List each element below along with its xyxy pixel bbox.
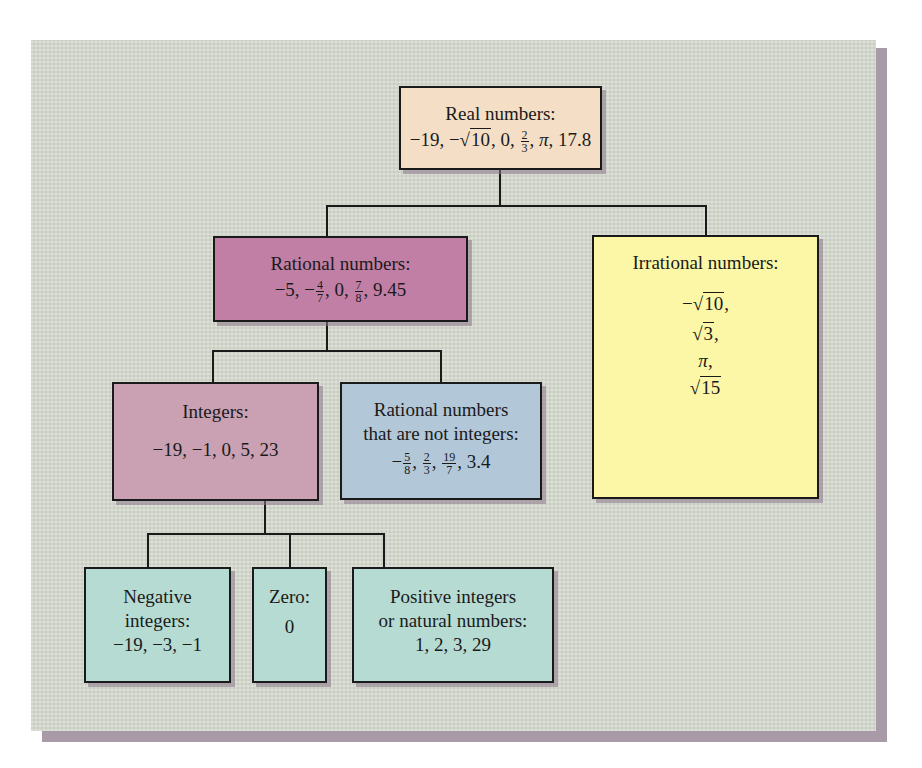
integers-label: Integers: xyxy=(114,400,317,424)
irrational-numbers-box: Irrational numbers: −√10, √3, π, √15 xyxy=(592,235,819,499)
connector-to-positive xyxy=(383,533,385,567)
irrational-example-2: √3, xyxy=(594,319,817,349)
real-numbers-box: Real numbers: −19, −√10, 0, 23, π, 17.8 xyxy=(399,86,602,170)
real-numbers-examples: −19, −√10, 0, 23, π, 17.8 xyxy=(401,128,600,154)
zero-box: Zero: 0 xyxy=(252,567,327,683)
fraction-2-3: 23 xyxy=(521,129,529,154)
not-integers-examples: −58, 23, 197, 3.4 xyxy=(342,450,540,476)
positive-label-line2: or natural numbers: xyxy=(354,609,552,633)
irrational-example-4: √15 xyxy=(594,373,817,403)
connector-level2-horizontal xyxy=(212,350,442,352)
negative-integers-box: Negative integers: −19, −3, −1 xyxy=(84,567,231,683)
irrational-example-1: −√10, xyxy=(594,289,817,319)
integers-box: Integers: −19, −1, 0, 5, 23 xyxy=(112,382,319,501)
not-integers-label-line2: that are not integers: xyxy=(342,422,540,446)
connector-to-rational xyxy=(326,205,328,236)
connector-real-down xyxy=(499,169,501,206)
connector-level3-horizontal xyxy=(147,533,385,535)
rational-not-integers-box: Rational numbers that are not integers: … xyxy=(340,382,542,500)
positive-integers-box: Positive integers or natural numbers: 1,… xyxy=(352,567,554,683)
positive-label-line1: Positive integers xyxy=(354,585,552,609)
zero-example: 0 xyxy=(254,615,325,639)
rational-numbers-label: Rational numbers: xyxy=(215,252,466,276)
fraction-7-8: 78 xyxy=(355,279,363,304)
fraction-4-7: 47 xyxy=(316,279,324,304)
irrational-numbers-label: Irrational numbers: xyxy=(594,251,817,275)
connector-to-not-integers xyxy=(440,350,442,382)
integers-examples: −19, −1, 0, 5, 23 xyxy=(114,438,317,462)
negative-label-line2: integers: xyxy=(86,609,229,633)
connector-to-irrational xyxy=(705,205,707,235)
connector-rational-down xyxy=(326,321,328,352)
connector-to-integers xyxy=(212,350,214,382)
rational-numbers-examples: −5, −47, 0, 78, 9.45 xyxy=(215,278,466,304)
positive-examples: 1, 2, 3, 29 xyxy=(354,633,552,657)
irrational-example-3: π, xyxy=(594,349,817,373)
connector-level1-horizontal xyxy=(326,205,707,207)
rational-numbers-box: Rational numbers: −5, −47, 0, 78, 9.45 xyxy=(213,236,468,322)
connector-integers-down xyxy=(264,500,266,535)
connector-to-negative xyxy=(147,533,149,567)
real-numbers-label: Real numbers: xyxy=(401,102,600,126)
zero-label: Zero: xyxy=(254,585,325,609)
not-integers-label-line1: Rational numbers xyxy=(342,398,540,422)
negative-examples: −19, −3, −1 xyxy=(86,633,229,657)
sqrt-symbol: √10 xyxy=(460,128,491,152)
connector-to-zero xyxy=(289,533,291,567)
negative-label-line1: Negative xyxy=(86,585,229,609)
